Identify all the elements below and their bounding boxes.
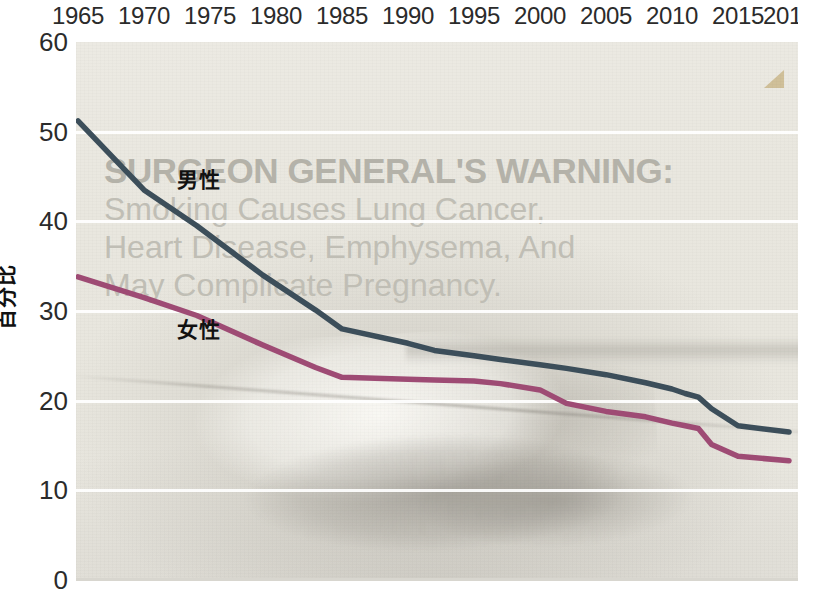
x-tick-1995: 1995 <box>448 2 500 30</box>
series-lines <box>76 42 798 580</box>
y-tick-30: 30 <box>39 296 68 327</box>
y-tick-40: 40 <box>39 206 68 237</box>
axis-baseline <box>76 578 798 581</box>
y-axis-title: 百分比 <box>0 264 19 330</box>
x-tick-2000: 2000 <box>514 2 566 30</box>
series-line-2 <box>78 277 789 461</box>
x-tick-1970: 1970 <box>118 2 170 30</box>
y-tick-50: 50 <box>39 116 68 147</box>
y-tick-20: 20 <box>39 385 68 416</box>
x-tick-2010: 2010 <box>646 2 698 30</box>
x-tick-1985: 1985 <box>316 2 368 30</box>
x-tick-2005: 2005 <box>580 2 632 30</box>
line-chart: 1965197019751980198519901995200020052010… <box>0 0 822 594</box>
y-tick-0: 0 <box>54 565 68 594</box>
series-label-1: 男性 <box>177 163 221 193</box>
x-tick-1975: 1975 <box>184 2 236 30</box>
y-tick-10: 10 <box>39 475 68 506</box>
x-tick-2015: 2015 <box>712 2 764 30</box>
x-tick-1990: 1990 <box>382 2 434 30</box>
plot-area: SURGEON GENERAL'S WARNING: Smoking Cause… <box>76 42 798 580</box>
page-right-margin <box>798 0 822 594</box>
y-tick-60: 60 <box>39 27 68 58</box>
x-tick-1980: 1980 <box>250 2 302 30</box>
series-label-2: 女性 <box>177 313 221 343</box>
